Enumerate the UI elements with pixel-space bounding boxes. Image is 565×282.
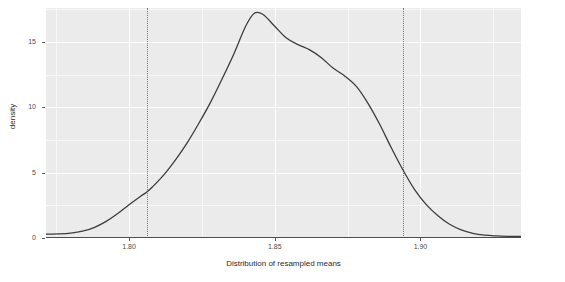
- density-curve: [46, 8, 521, 238]
- x-tick-label: 1.90: [400, 243, 440, 250]
- x-tick-label: 1.80: [109, 243, 149, 250]
- x-axis-title: Distribution of resampled means: [46, 259, 521, 268]
- plot-panel: [46, 8, 521, 238]
- x-tick-label: 1.85: [255, 243, 295, 250]
- y-tick-label: 15: [8, 38, 36, 46]
- y-axis-tick: 15: [0, 38, 42, 46]
- x-tick-mark: [420, 238, 421, 241]
- y-axis-title: density: [8, 87, 17, 147]
- y-tick-mark: [42, 42, 45, 43]
- y-tick-mark: [42, 107, 45, 108]
- y-axis-tick: 5: [0, 169, 42, 177]
- y-axis-tick: 10: [0, 103, 42, 111]
- y-tick-mark: [42, 238, 45, 239]
- x-tick-mark: [275, 238, 276, 241]
- density-plot: 051015 1.801.851.90 Distribution of resa…: [0, 0, 565, 282]
- x-tick-mark: [129, 238, 130, 241]
- y-tick-mark: [42, 173, 45, 174]
- x-axis-line: [46, 237, 521, 238]
- y-axis-tick: 0: [0, 234, 42, 242]
- y-tick-label: 5: [8, 169, 36, 177]
- y-tick-label: 0: [8, 234, 36, 242]
